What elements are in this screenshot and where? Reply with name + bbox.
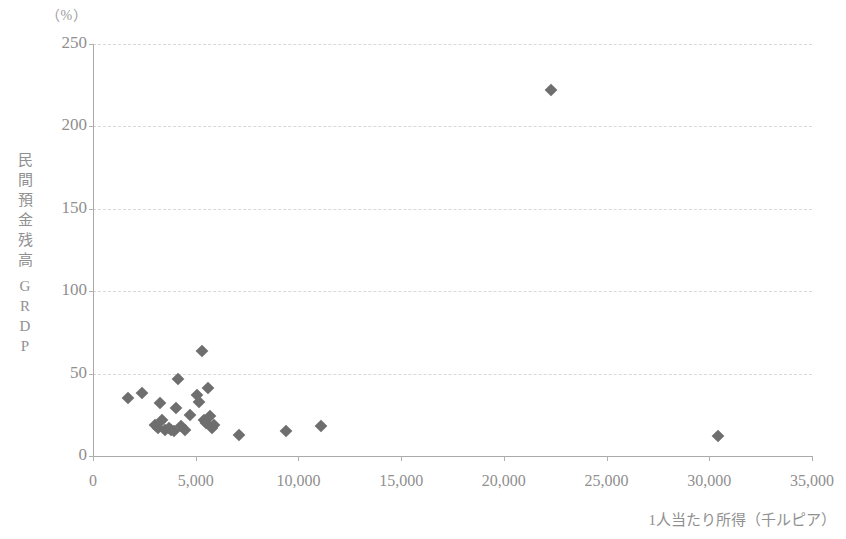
data-point xyxy=(315,420,328,433)
data-point xyxy=(136,387,149,400)
y-axis-tick xyxy=(89,209,94,210)
x-axis-tick-label: 10,000 xyxy=(276,472,320,490)
x-axis-tick-label: 5,000 xyxy=(178,472,214,490)
y-axis-tick xyxy=(89,44,94,45)
x-axis-tick-label: 15,000 xyxy=(379,472,423,490)
scatter-chart-figure: （%） 民間預金残高GRDP 050100150200250 05,00010,… xyxy=(0,0,846,539)
x-axis-tick-label: 25,000 xyxy=(585,472,629,490)
data-point xyxy=(280,425,293,438)
data-point xyxy=(232,428,245,441)
gridline-horizontal xyxy=(93,291,812,292)
x-axis-line xyxy=(93,456,812,457)
x-axis-tick xyxy=(812,456,813,461)
data-point xyxy=(170,402,183,415)
x-axis-tick xyxy=(196,456,197,461)
x-axis-tick-label: 30,000 xyxy=(687,472,731,490)
gridline-horizontal xyxy=(93,374,812,375)
y-axis-tick-label: 50 xyxy=(41,363,87,383)
y-axis-tick-label: 250 xyxy=(41,33,87,53)
x-axis-tick-label: 0 xyxy=(89,472,97,490)
y-axis-tick xyxy=(89,126,94,127)
gridline-horizontal xyxy=(93,209,812,210)
x-axis-tick-labels: 05,00010,00015,00020,00025,00030,00035,0… xyxy=(93,472,812,496)
y-axis-tick-label: 0 xyxy=(41,445,87,465)
y-axis-unit-label: （%） xyxy=(46,4,87,24)
x-axis-tick xyxy=(298,456,299,461)
data-point xyxy=(183,408,196,421)
x-axis-tick xyxy=(401,456,402,461)
data-point xyxy=(122,392,135,405)
data-point xyxy=(196,344,209,357)
x-axis-tick xyxy=(607,456,608,461)
plot-area xyxy=(93,44,812,456)
y-axis-tick xyxy=(89,374,94,375)
data-point xyxy=(153,397,166,410)
x-axis-tick xyxy=(93,456,94,461)
x-axis-title: 1人当たり所得（千ルピア） xyxy=(0,508,836,529)
y-axis-tick-label: 100 xyxy=(41,280,87,300)
gridline-horizontal xyxy=(93,126,812,127)
data-point xyxy=(202,382,215,395)
x-axis-tick-label: 35,000 xyxy=(790,472,834,490)
x-axis-tick xyxy=(709,456,710,461)
x-axis-tick xyxy=(504,456,505,461)
data-point xyxy=(711,430,724,443)
y-axis-tick-labels: 050100150200250 xyxy=(35,44,87,456)
y-axis-tick-label: 200 xyxy=(41,115,87,135)
gridline-horizontal xyxy=(93,44,812,45)
data-point xyxy=(545,84,558,97)
y-axis-tick-label: 150 xyxy=(41,198,87,218)
y-axis-tick xyxy=(89,291,94,292)
x-axis-tick-label: 20,000 xyxy=(482,472,526,490)
